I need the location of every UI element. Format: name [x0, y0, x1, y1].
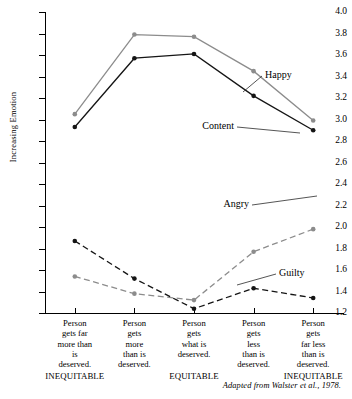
series-label-guilty: Guilty: [279, 267, 305, 278]
data-point-angry: [311, 227, 316, 232]
category-label-line: Person: [277, 318, 349, 328]
data-point-guilty: [73, 239, 78, 244]
data-point-guilty: [251, 286, 256, 291]
category-label-line: deserved.: [98, 359, 170, 369]
data-point-content: [311, 128, 316, 133]
data-point-happy: [251, 69, 256, 74]
category-label: Persongetsfar lessthan isdeserved.: [277, 318, 349, 369]
series-line-angry: [75, 229, 313, 300]
series-label-happy: Happy: [265, 69, 292, 80]
leader-line-guilty: [237, 274, 276, 285]
data-point-angry: [251, 249, 256, 254]
data-point-content: [192, 52, 197, 57]
data-point-happy: [132, 32, 137, 37]
leader-line-angry: [252, 196, 317, 205]
data-point-angry: [132, 291, 137, 296]
category-label-line: gets: [277, 328, 349, 338]
data-point-happy: [192, 34, 197, 39]
category-label-line: than is: [277, 349, 349, 359]
data-point-angry: [192, 298, 197, 303]
data-point-guilty: [311, 296, 316, 301]
data-point-guilty: [132, 276, 137, 281]
series-label-angry: Angry: [0, 198, 249, 209]
data-point-happy: [73, 112, 78, 117]
equity-label: INEQUITABLE: [140, 371, 352, 381]
leader-line-content: [237, 127, 300, 133]
category-label-line: deserved.: [277, 359, 349, 369]
data-point-guilty: [192, 306, 197, 311]
source-note: Adapted from Walster et al., 1978.: [223, 381, 341, 390]
category-label-line: far less: [277, 339, 349, 349]
data-point-content: [251, 94, 256, 99]
series-label-content: Content: [0, 120, 234, 131]
data-point-content: [132, 56, 137, 61]
data-point-angry: [73, 274, 78, 279]
data-point-happy: [311, 118, 316, 123]
leader-line-happy: [243, 76, 262, 92]
